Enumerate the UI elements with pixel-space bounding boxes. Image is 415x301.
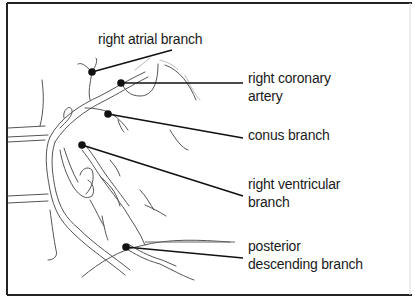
label-line: conus branch (248, 126, 330, 144)
label-line: right ventricular (248, 175, 340, 193)
label-line: posterior (248, 237, 363, 255)
leader-right-atrial (92, 50, 172, 72)
vessel-drawing (8, 58, 230, 280)
leader-lines (79, 50, 243, 258)
label-line: artery (248, 87, 331, 105)
label-right-ventricular-branch: right ventricular branch (248, 175, 340, 211)
label-right-atrial-branch: right atrial branch (98, 30, 202, 48)
label-line: descending branch (248, 255, 363, 273)
label-posterior-descending-branch: posterior descending branch (248, 237, 363, 273)
label-line: branch (248, 193, 340, 211)
label-right-coronary-artery: right coronary artery (248, 69, 331, 105)
leader-right-ventricular (82, 145, 243, 196)
label-line: right atrial branch (98, 30, 202, 48)
leader-conus (108, 114, 243, 138)
label-line: right coronary (248, 69, 331, 87)
label-conus-branch: conus branch (248, 126, 330, 144)
